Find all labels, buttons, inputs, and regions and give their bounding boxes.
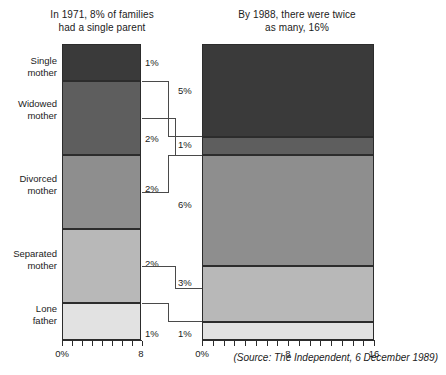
category-label-widowed-mother-line2: mother: [0, 110, 57, 122]
axis-tick: [363, 341, 364, 346]
source-note: (Source: The Independent, 6 December 198…: [233, 352, 438, 363]
value-label-1988-divorced-mother: 6%: [178, 199, 192, 210]
category-label-divorced-mother-line1: Divorced: [0, 173, 57, 185]
axis-tick: [224, 341, 225, 346]
category-label-lone-father-line1: Lone: [0, 303, 57, 315]
category-label-separated-mother-line2: mother: [0, 260, 57, 272]
axis-tick: [374, 341, 375, 346]
bar-segment-1988-widowed-mother: [202, 137, 374, 156]
source-prefix: (Source:: [233, 352, 274, 363]
panel-title-1971: In 1971, 8% of families had a single par…: [22, 9, 182, 34]
axis-tick: [277, 341, 278, 346]
bar-segment-1971-widowed-mother: [62, 81, 141, 155]
category-label-widowed-mother: Widowed mother: [0, 98, 57, 121]
x-axis-ticks-1988: [0, 341, 446, 347]
category-label-divorced-mother: Divorced mother: [0, 173, 57, 196]
category-label-divorced-mother-line2: mother: [0, 185, 57, 197]
category-label-lone-father-line2: father: [0, 315, 57, 327]
axis-tick: [245, 341, 246, 346]
category-label-single-mother-line2: mother: [0, 67, 57, 79]
bar-segment-1971-divorced-mother: [62, 155, 141, 229]
panel-title-1988: By 1988, there were twice as many, 16%: [212, 9, 382, 34]
axis-tick: [310, 341, 311, 346]
category-label-single-mother-line1: Single: [0, 55, 57, 67]
source-suffix: , 6 December 1989): [350, 352, 438, 363]
value-label-1988-widowed-mother: 1%: [178, 139, 192, 150]
axis-tick: [234, 341, 235, 346]
x-axis-tick-label-1971-0: 0%: [47, 348, 77, 359]
bar-segment-1971-separated-mother: [62, 229, 141, 303]
value-label-1971-widowed-mother: 2%: [145, 133, 159, 144]
connector-separated-mother: [142, 266, 202, 288]
value-label-1971-separated-mother: 2%: [145, 258, 159, 269]
panel-title-1971-line2: had a single parent: [22, 22, 182, 35]
chart-canvas: In 1971, 8% of families had a single par…: [0, 0, 446, 375]
panel-title-1988-line1: By 1988, there were twice: [212, 9, 382, 22]
axis-tick: [202, 341, 203, 346]
axis-tick: [288, 341, 289, 346]
panel-title-1988-line2: as many, 16%: [212, 22, 382, 35]
category-label-separated-mother: Separated mother: [0, 248, 57, 271]
bar-segment-1988-single-mother: [202, 44, 374, 137]
category-label-single-mother: Single mother: [0, 55, 57, 78]
bar-segment-1971-lone-father: [62, 303, 141, 340]
source-publication: The Independent: [274, 352, 350, 363]
bar-segment-1988-lone-father: [202, 322, 374, 341]
bar-segment-1988-separated-mother: [202, 266, 374, 322]
x-axis-tick-label-1971-8: 8: [126, 348, 156, 359]
axis-tick: [353, 341, 354, 346]
value-label-1971-single-mother: 1%: [145, 57, 159, 68]
bar-segment-1971-single-mother: [62, 44, 141, 81]
connector-lone-father: [142, 303, 202, 321]
value-label-1971-lone-father: 1%: [145, 328, 159, 339]
panel-title-1971-line1: In 1971, 8% of families: [22, 9, 182, 22]
category-label-lone-father: Lone father: [0, 303, 57, 326]
stacked-bar-1971: [62, 44, 141, 340]
stacked-bar-1988: [202, 44, 374, 340]
category-label-widowed-mother-line1: Widowed: [0, 98, 57, 110]
axis-tick: [267, 341, 268, 346]
value-label-1988-single-mother: 5%: [178, 85, 192, 96]
axis-tick: [342, 341, 343, 346]
x-axis-tick-label-1988-0: 0%: [187, 348, 217, 359]
axis-tick: [299, 341, 300, 346]
axis-tick: [213, 341, 214, 346]
axis-tick: [256, 341, 257, 346]
value-label-1988-lone-father: 1%: [178, 328, 192, 339]
category-label-separated-mother-line1: Separated: [0, 248, 57, 260]
bar-segment-1988-divorced-mother: [202, 155, 374, 266]
value-label-1971-divorced-mother: 2%: [145, 183, 159, 194]
axis-tick: [320, 341, 321, 346]
value-label-1988-separated-mother: 3%: [178, 277, 192, 288]
axis-tick: [331, 341, 332, 346]
connector-single-mother: [142, 81, 202, 136]
